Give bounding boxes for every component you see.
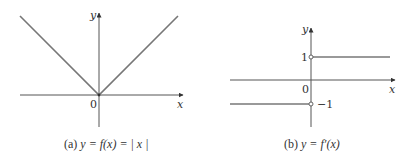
graph-b-y-label: y — [301, 23, 309, 36]
graph-a-y-label: y — [89, 9, 97, 22]
figure-canvas: y x 0 (a) y = f(x) = | x | y x 0 1 −1 (b… — [0, 0, 403, 163]
graph-b-open-circle-bottom — [309, 102, 313, 106]
graph-b-tick-neg1-label: −1 — [317, 98, 333, 111]
graph-b-x-label: x — [389, 83, 396, 96]
graph-a-origin-dot — [98, 94, 101, 97]
graph-a-caption-prefix: (a) — [64, 137, 80, 151]
graph-b: y x 0 1 −1 (b) y = f′(x) — [230, 23, 396, 151]
graph-a: y x 0 (a) y = f(x) = | x | — [20, 9, 184, 151]
graph-b-caption-prefix: (b) — [284, 137, 301, 151]
graph-b-caption-math: y = f′(x) — [300, 137, 340, 151]
graph-b-caption: (b) y = f′(x) — [284, 137, 340, 151]
graph-b-tick-1-label: 1 — [301, 51, 308, 64]
graph-a-caption: (a) y = f(x) = | x | — [64, 137, 148, 151]
graph-b-origin-label: 0 — [302, 83, 309, 96]
graph-a-origin-label: 0 — [90, 98, 97, 111]
graph-a-caption-math: y = f(x) = | x | — [79, 137, 148, 151]
graph-b-open-circle-top — [309, 55, 313, 59]
graph-a-x-label: x — [177, 98, 184, 111]
